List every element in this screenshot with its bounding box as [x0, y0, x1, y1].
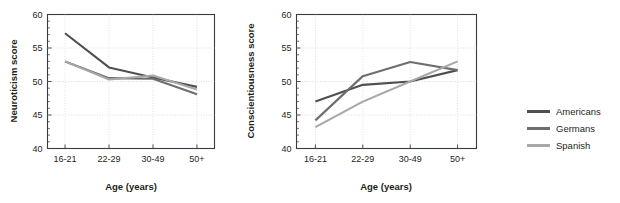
legend-item-spanish[interactable]: Spanish — [527, 137, 620, 154]
x-tick-label: 22-29 — [351, 154, 374, 164]
caption-fragment — [0, 196, 620, 203]
x-tick-label: 50+ — [189, 154, 204, 164]
series-lines — [315, 61, 457, 127]
series-line-spanish — [65, 61, 197, 89]
x-ticks — [65, 145, 197, 149]
y-gridlines — [48, 48, 215, 115]
conscientiousness-svg: 4045505560 16-2122-2930-4950+ Age (years… — [237, 0, 487, 203]
y-tick-label: 40 — [32, 144, 42, 154]
y-tick-label: 55 — [281, 43, 291, 53]
chart-neuroticism: 4045505560 16-2122-2930-4950+ Age (years… — [0, 0, 230, 203]
y-tick-label: 45 — [32, 110, 42, 120]
y-axis-title: Neuroticism score — [8, 40, 19, 123]
legend-item-germans[interactable]: Germans — [527, 120, 620, 137]
legend-swatch-spanish — [527, 144, 550, 146]
x-tick-label: 30-49 — [399, 154, 422, 164]
x-tick-labels: 16-2122-2930-4950+ — [54, 154, 205, 164]
x-tick-label: 22-29 — [97, 154, 120, 164]
y-tick-label: 60 — [32, 10, 42, 20]
y-tick-label: 60 — [281, 10, 291, 20]
legend-label-germans: Germans — [556, 124, 595, 134]
y-tick-label: 50 — [32, 77, 42, 87]
legend-swatch-americans — [527, 110, 550, 112]
y-axis-title: Conscientiousness score — [245, 23, 256, 138]
x-axis-title: Age (years) — [360, 181, 412, 192]
y-tick-label: 40 — [281, 144, 291, 154]
chart-conscientiousness: 4045505560 16-2122-2930-4950+ Age (years… — [237, 0, 487, 203]
x-tick-label: 50+ — [450, 154, 465, 164]
legend: Americans Germans Spanish — [527, 103, 620, 154]
neuroticism-svg: 4045505560 16-2122-2930-4950+ Age (years… — [0, 0, 230, 203]
legend-item-americans[interactable]: Americans — [527, 103, 620, 120]
x-tick-label: 16-21 — [54, 154, 77, 164]
y-gridlines — [297, 48, 477, 115]
y-tick-label: 55 — [32, 43, 42, 53]
conscientiousness-plot: 4045505560 16-2122-2930-4950+ — [281, 10, 476, 164]
neuroticism-plot: 4045505560 16-2122-2930-4950+ — [32, 10, 214, 164]
x-ticks — [315, 145, 457, 149]
x-tick-labels: 16-2122-2930-4950+ — [304, 154, 465, 164]
y-tick-label: 50 — [281, 77, 291, 87]
y-tick-labels: 4045505560 — [281, 10, 291, 154]
legend-label-americans: Americans — [556, 107, 601, 117]
series-lines — [65, 33, 197, 94]
figure-personality-scores-by-age: 4045505560 16-2122-2930-4950+ Age (years… — [0, 0, 620, 203]
y-tick-labels: 4045505560 — [32, 10, 42, 154]
legend-label-spanish: Spanish — [556, 141, 590, 151]
x-tick-label: 16-21 — [304, 154, 327, 164]
x-gridlines — [315, 15, 457, 149]
series-line-americans — [315, 70, 457, 101]
y-ticks — [297, 15, 301, 149]
legend-swatch-germans — [527, 127, 550, 129]
y-tick-label: 45 — [281, 110, 291, 120]
x-axis-title: Age (years) — [105, 181, 157, 192]
y-ticks — [48, 15, 52, 149]
x-tick-label: 30-49 — [141, 154, 164, 164]
